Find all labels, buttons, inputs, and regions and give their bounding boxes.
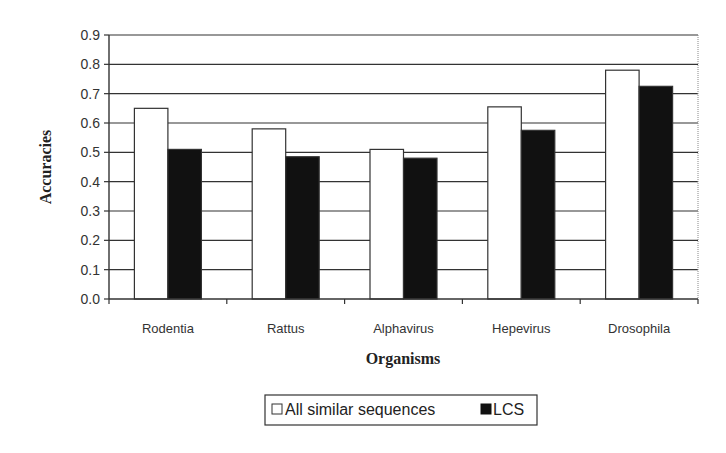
bar-lcs-drosophila — [639, 86, 673, 299]
bar-lcs-rodentia — [168, 149, 202, 299]
y-tick-label: 0.0 — [81, 291, 101, 307]
legend-label-all-similar: All similar sequences — [285, 401, 435, 418]
x-axis-categories: RodentiaRattusAlphavirusHepevirusDrosoph… — [109, 299, 698, 336]
legend-label-lcs: LCS — [493, 401, 524, 418]
legend-swatch-all-similar-icon — [272, 404, 282, 414]
x-category-label: Drosophila — [608, 321, 671, 336]
x-category-label: Rodentia — [142, 321, 195, 336]
y-tick-label: 0.4 — [81, 174, 101, 190]
y-tick-label: 0.8 — [81, 56, 101, 72]
legend-swatch-lcs-icon — [481, 404, 491, 414]
y-tick-label: 0.2 — [81, 232, 101, 248]
bar-lcs-hepevirus — [521, 130, 555, 299]
bar-all-similar-hepevirus — [488, 107, 522, 299]
y-tick-label: 0.7 — [81, 86, 101, 102]
bar-chart: 0.00.10.20.30.40.50.60.70.80.9 RodentiaR… — [0, 0, 726, 453]
x-category-label: Rattus — [267, 321, 305, 336]
bars — [134, 70, 672, 299]
bar-all-similar-drosophila — [606, 70, 640, 299]
x-axis-title: Organisms — [366, 350, 441, 368]
bar-all-similar-rattus — [252, 129, 286, 299]
bar-lcs-rattus — [286, 157, 320, 299]
legend: All similar sequences LCS — [265, 395, 537, 425]
y-tick-label: 0.1 — [81, 262, 101, 278]
y-axis-ticks: 0.00.10.20.30.40.50.60.70.80.9 — [81, 27, 109, 307]
x-category-label: Alphavirus — [373, 321, 434, 336]
bar-all-similar-alphavirus — [370, 149, 404, 299]
y-axis-title: Accuracies — [37, 130, 54, 205]
y-tick-label: 0.9 — [81, 27, 101, 43]
y-tick-label: 0.6 — [81, 115, 101, 131]
bar-lcs-alphavirus — [404, 158, 438, 299]
x-category-label: Hepevirus — [492, 321, 551, 336]
bar-all-similar-rodentia — [134, 108, 168, 299]
y-tick-label: 0.3 — [81, 203, 101, 219]
y-tick-label: 0.5 — [81, 144, 101, 160]
